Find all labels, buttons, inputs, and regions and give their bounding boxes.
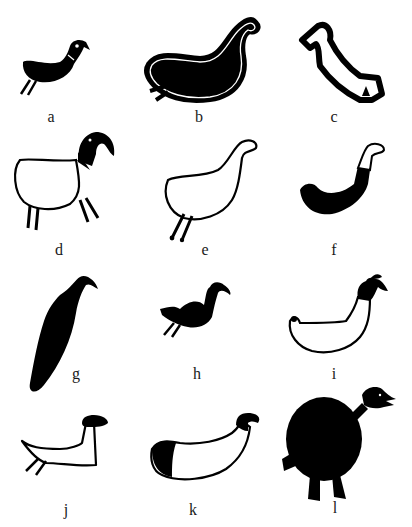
panel-label: j xyxy=(56,501,76,519)
figure-panel-e: e xyxy=(140,130,280,265)
bird-drawing-d xyxy=(0,130,140,265)
bird-drawing-c xyxy=(280,0,412,130)
bird-drawing-h xyxy=(140,265,280,395)
figure-panel-g: g xyxy=(0,265,140,395)
panel-label: b xyxy=(189,108,209,126)
panel-label: c xyxy=(324,108,344,126)
figure-panel-d: d xyxy=(0,130,140,265)
bird-drawing-a xyxy=(0,0,140,130)
panel-label: d xyxy=(49,241,69,259)
figure-panel-b: b xyxy=(140,0,280,130)
figure-panel-a: a xyxy=(0,0,140,130)
panel-label: k xyxy=(183,501,203,519)
figure-panel-h: h xyxy=(140,265,280,395)
bird-drawing-k xyxy=(140,395,280,527)
panel-label: a xyxy=(41,108,61,126)
bird-drawing-l xyxy=(280,375,412,527)
panel-label: l xyxy=(325,499,345,517)
panel-label: f xyxy=(324,241,344,259)
figure-panel-f: f xyxy=(280,130,412,265)
figure-panel-c: c xyxy=(280,0,412,130)
figure-panel-j: j xyxy=(0,395,140,527)
bird-drawing-f xyxy=(280,130,412,265)
bird-drawing-b xyxy=(140,0,280,130)
panel-label: g xyxy=(66,365,86,383)
figure-panel-l: l xyxy=(280,375,412,527)
panel-label: e xyxy=(195,241,215,259)
figure-panel-k: k xyxy=(140,395,280,527)
panel-label: h xyxy=(187,365,207,383)
